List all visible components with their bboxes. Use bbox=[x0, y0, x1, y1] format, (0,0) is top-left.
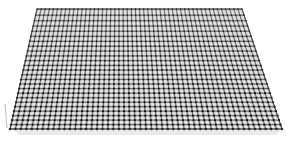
perspective-grid-surface bbox=[0, 0, 288, 141]
plane-shadow bbox=[14, 130, 282, 135]
axis-stub bbox=[5, 104, 7, 128]
grid-plane-render bbox=[0, 0, 288, 141]
